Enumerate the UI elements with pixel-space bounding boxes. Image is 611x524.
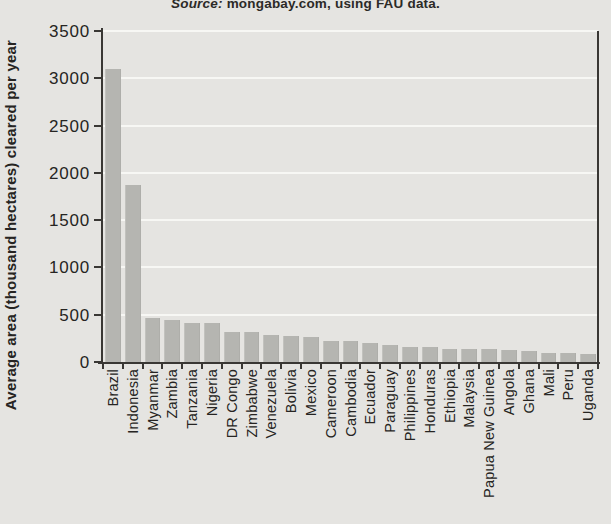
x-tick-1 (122, 362, 124, 369)
x-tick-7 (241, 362, 243, 369)
y-tick-1500 (94, 219, 101, 221)
plot-area: 0500100015002000250030003500BrazilIndone… (0, 0, 611, 524)
bar-angola (501, 350, 517, 362)
x-tick-label-cameroon: Cameroon (324, 369, 338, 519)
x-tick-4 (181, 362, 183, 369)
x-tick-label-ghana: Ghana (522, 369, 536, 519)
x-tick-0 (102, 362, 104, 369)
x-tick-10 (300, 362, 302, 369)
y-tick-label-500: 500 (40, 307, 90, 324)
y-tick-label-1500: 1500 (40, 212, 90, 229)
gridline-2000 (103, 172, 598, 174)
x-tick-22 (538, 362, 540, 369)
bar-mexico (303, 337, 319, 362)
gridline-500 (103, 314, 598, 316)
x-tick-8 (260, 362, 262, 369)
x-tick-label-ecuador: Ecuador (363, 369, 377, 519)
bar-cameroon (323, 341, 339, 362)
y-tick-2000 (94, 172, 101, 174)
x-tick-label-papua-new-guinea: Papua New Guinea (482, 369, 496, 519)
x-tick-25 (597, 362, 599, 369)
x-tick-9 (280, 362, 282, 369)
figure: Source: mongabay.com, using FAU data. Av… (0, 0, 611, 524)
x-tick-label-angola: Angola (502, 369, 516, 519)
y-tick-1000 (94, 266, 101, 268)
x-tick-17 (439, 362, 441, 369)
x-tick-11 (320, 362, 322, 369)
x-tick-label-malaysia: Malaysia (462, 369, 476, 519)
y-tick-0 (94, 361, 101, 363)
bar-venezuela (263, 335, 279, 362)
x-tick-label-zimbabwe: Zimbabwe (245, 369, 259, 519)
bar-malaysia (461, 349, 477, 362)
x-tick-14 (379, 362, 381, 369)
y-tick-label-0: 0 (40, 354, 90, 371)
x-tick-label-indonesia: Indonesia (126, 369, 140, 519)
y-tick-label-2000: 2000 (40, 165, 90, 182)
x-tick-label-cambodia: Cambodia (344, 369, 358, 519)
bar-honduras (422, 347, 438, 362)
x-tick-label-honduras: Honduras (423, 369, 437, 519)
gridline-2500 (103, 125, 598, 127)
x-tick-label-paraguay: Paraguay (383, 369, 397, 519)
gridline-3000 (103, 77, 598, 79)
x-tick-15 (399, 362, 401, 369)
x-tick-21 (518, 362, 520, 369)
gridline-3500 (103, 30, 598, 32)
bar-cambodia (343, 341, 359, 362)
bar-ecuador (362, 343, 378, 362)
x-tick-6 (221, 362, 223, 369)
x-tick-label-ethiopia: Ethiopia (443, 369, 457, 519)
x-tick-label-mali: Mali (542, 369, 556, 519)
y-tick-label-3500: 3500 (40, 23, 90, 40)
x-tick-24 (577, 362, 579, 369)
bar-myanmar (145, 318, 161, 362)
x-tick-label-zambia: Zambia (165, 369, 179, 519)
x-tick-23 (557, 362, 559, 369)
x-tick-label-uganda: Uganda (581, 369, 595, 519)
x-tick-5 (201, 362, 203, 369)
bar-indonesia (125, 185, 141, 362)
gridline-1000 (103, 266, 598, 268)
bar-philippines (402, 347, 418, 362)
bar-uganda (580, 354, 596, 362)
y-tick-label-1000: 1000 (40, 259, 90, 276)
x-tick-12 (340, 362, 342, 369)
x-tick-label-brazil: Brazil (106, 369, 120, 519)
y-tick-500 (94, 314, 101, 316)
bar-tanzania (184, 323, 200, 362)
y-axis-line (101, 28, 103, 364)
x-tick-label-tanzania: Tanzania (185, 369, 199, 519)
x-tick-label-philippines: Philippines (403, 369, 417, 519)
x-tick-18 (458, 362, 460, 369)
y-tick-3000 (94, 77, 101, 79)
x-tick-2 (142, 362, 144, 369)
bar-paraguay (382, 345, 398, 362)
bar-brazil (105, 69, 121, 362)
x-tick-20 (498, 362, 500, 369)
bar-ethiopia (442, 349, 458, 362)
x-tick-19 (478, 362, 480, 369)
x-tick-label-mexico: Mexico (304, 369, 318, 519)
x-tick-label-venezuela: Venezuela (264, 369, 278, 519)
bar-nigeria (204, 323, 220, 362)
bar-zimbabwe (244, 332, 260, 362)
x-tick-label-bolivia: Bolivia (284, 369, 298, 519)
bar-zambia (164, 320, 180, 362)
gridline-1500 (103, 219, 598, 221)
x-tick-label-dr-congo: DR Congo (225, 369, 239, 519)
bar-papua-new-guinea (481, 349, 497, 362)
bar-bolivia (283, 336, 299, 362)
x-tick-label-nigeria: Nigeria (205, 369, 219, 519)
y-tick-label-2500: 2500 (40, 118, 90, 135)
bar-peru (560, 353, 576, 362)
y-tick-label-3000: 3000 (40, 70, 90, 87)
y-tick-3500 (94, 30, 101, 32)
x-tick-16 (419, 362, 421, 369)
bar-dr-congo (224, 332, 240, 362)
plot-right-border (597, 31, 599, 362)
bar-ghana (521, 351, 537, 362)
x-tick-label-peru: Peru (561, 369, 575, 519)
x-axis-line (98, 362, 600, 364)
x-tick-3 (161, 362, 163, 369)
